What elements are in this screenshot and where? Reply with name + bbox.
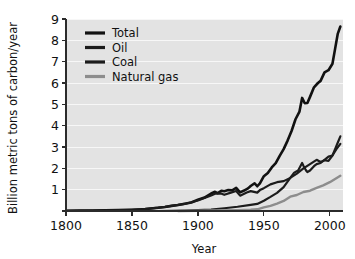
x-tick-label-1950: 1950 [248, 218, 280, 233]
chart-figure: 18001850190019502000 123456789 Year Bill… [0, 0, 355, 259]
y-axis-tick-labels: 123456789 [51, 12, 59, 198]
x-axis-title: Year [191, 242, 217, 256]
y-tick-label-5: 5 [51, 97, 59, 112]
y-tick-label-6: 6 [51, 76, 59, 91]
y-tick-label-4: 4 [51, 118, 59, 133]
x-tick-label-2000: 2000 [314, 218, 346, 233]
y-tick-label-3: 3 [51, 140, 59, 155]
legend-label-natural-gas: Natural gas [112, 70, 178, 84]
legend-label-coal: Coal [112, 55, 137, 69]
y-tick-label-7: 7 [51, 54, 59, 69]
x-tick-label-1850: 1850 [116, 218, 148, 233]
legend-label-oil: Oil [112, 41, 127, 55]
y-tick-label-1: 1 [51, 182, 59, 197]
legend-label-total: Total [111, 26, 139, 40]
y-tick-label-2: 2 [51, 161, 59, 176]
y-tick-label-9: 9 [51, 12, 59, 27]
y-axis-title: Billion metric tons of carbon/year [6, 22, 20, 214]
x-axis-tick-labels: 18001850190019502000 [50, 218, 346, 233]
plot-background [66, 19, 343, 211]
y-tick-label-8: 8 [51, 33, 59, 48]
x-tick-label-1800: 1800 [50, 218, 82, 233]
x-tick-label-1900: 1900 [182, 218, 214, 233]
emissions-line-chart: 18001850190019502000 123456789 Year Bill… [0, 0, 355, 259]
